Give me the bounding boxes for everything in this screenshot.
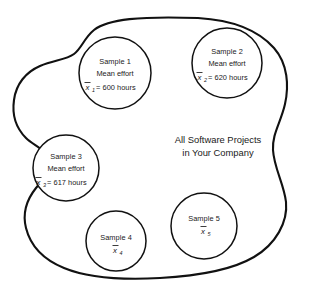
sample-4-xbar-subscript: 4 <box>120 250 123 256</box>
sampling-diagram: All Software Projects in Your Company Sa… <box>0 0 311 300</box>
sample-3-group[interactable]: Sample 3 Mean effort x 3 = 617 hours <box>33 135 99 201</box>
sample-3-xbar-subscript: 3 <box>43 182 46 188</box>
sample-1-value-line: = 600 hours <box>96 83 136 92</box>
diagram-canvas: All Software Projects in Your Company Sa… <box>0 0 311 300</box>
sample-1-xbar-subscript: 1 <box>92 87 95 93</box>
sample-3-mean-label: Mean effort <box>47 164 84 173</box>
sample-5-circle[interactable] <box>171 193 237 259</box>
population-label-line1: All Software Projects <box>175 134 262 145</box>
sample-2-group[interactable]: Sample 2 Mean effort x 2 = 620 hours <box>192 28 262 98</box>
sample-5-name: Sample 5 <box>188 214 220 223</box>
sample-1-mean-label: Mean effort <box>96 69 133 78</box>
sample-1-name: Sample 1 <box>99 57 131 66</box>
sample-2-value-line: = 620 hours <box>208 73 248 82</box>
sample-3-value-line: = 617 hours <box>47 178 87 187</box>
sample-2-name: Sample 2 <box>211 47 243 56</box>
sample-4-name: Sample 4 <box>100 233 132 242</box>
sample-2-xbar-subscript: 2 <box>203 77 207 83</box>
sample-1-group[interactable]: Sample 1 Mean effort x 1 = 600 hours <box>79 37 151 109</box>
population-label-line2: in Your Company <box>182 147 254 158</box>
sample-2-mean-label: Mean effort <box>208 59 245 68</box>
sample-3-name: Sample 3 <box>50 152 82 161</box>
sample-4-group[interactable]: Sample 4 x 4 <box>86 211 146 271</box>
sample-5-group[interactable]: Sample 5 x 5 <box>171 193 237 259</box>
